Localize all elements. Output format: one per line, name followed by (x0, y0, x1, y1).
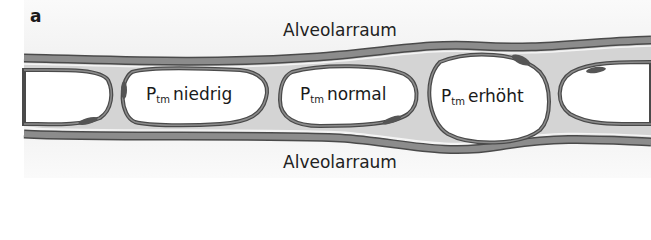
pressure-symbol: P (146, 84, 156, 104)
pressure-subscript: tm (310, 94, 324, 105)
capillary-left-partial (24, 70, 111, 124)
capillary-label-normal: Ptmnormal (300, 84, 387, 105)
pressure-state: normal (327, 84, 387, 104)
capillary-label-niedrig: Ptmniedrig (146, 84, 232, 105)
pressure-state: erhöht (468, 86, 524, 106)
capillary-label-erhoeht: Ptmerhöht (441, 86, 524, 107)
pressure-symbol: P (300, 84, 310, 104)
pressure-symbol: P (441, 86, 451, 106)
pressure-subscript: tm (451, 96, 465, 107)
alveolar-space-bottom-label: Alveolarraum (0, 152, 651, 172)
pressure-subscript: tm (156, 94, 170, 105)
pressure-state: niedrig (173, 84, 232, 104)
endothelial-nucleus (121, 81, 127, 99)
